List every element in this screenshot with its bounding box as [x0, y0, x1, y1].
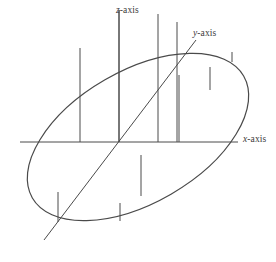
x-axis-label-suffix: -axis — [247, 134, 266, 144]
ordinate-segments — [58, 10, 232, 222]
diagram-canvas — [0, 0, 276, 262]
domain-ellipse — [0, 19, 276, 255]
x-axis-label: x-axis — [243, 135, 266, 145]
z-axis-label: z-axis — [116, 6, 139, 16]
y-axis-label: y-axis — [193, 29, 216, 39]
y-axis-label-suffix: -axis — [197, 28, 216, 38]
figure-container: z-axis y-axis x-axis — [0, 0, 276, 262]
axis-lines — [20, 10, 238, 240]
ellipse-boundary — [0, 19, 276, 255]
z-axis-label-suffix: -axis — [120, 5, 139, 15]
